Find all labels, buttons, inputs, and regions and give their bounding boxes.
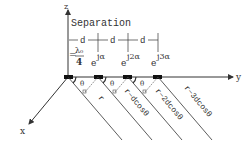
denominator: 4 — [76, 57, 82, 67]
z-axis-label: z — [64, 2, 68, 11]
x-axis — [29, 77, 68, 124]
phase-e: e — [121, 58, 126, 68]
phase-e: e — [91, 58, 96, 68]
distance-label: r−3dcosθ — [182, 84, 214, 119]
phase-exp: j3α — [156, 52, 171, 61]
phase-exp: j2α — [126, 52, 141, 61]
array-diagram: z y x Separation d d d = λ₀ 4 e jα e j2α… — [0, 0, 245, 147]
d-label: d — [140, 36, 145, 46]
theta-label: θ — [140, 80, 144, 88]
theta-label: θ — [80, 80, 84, 88]
d-label: d — [110, 36, 115, 46]
theta-label: θ — [110, 80, 114, 88]
phase-exp: jα — [96, 52, 105, 61]
distance-label: r−2dcosθ — [153, 87, 185, 122]
array-element — [153, 75, 162, 79]
phase-e: e — [151, 58, 156, 68]
separation-title: Separation — [71, 18, 131, 29]
y-axis-label: y — [235, 72, 242, 82]
distance-label: r−dcosθ — [122, 87, 151, 119]
d-label: d — [80, 36, 85, 46]
distance-label: r — [96, 94, 106, 104]
array-element — [123, 75, 132, 79]
lambda-numerator: λ₀ — [75, 46, 83, 55]
x-axis-label: x — [20, 126, 25, 136]
